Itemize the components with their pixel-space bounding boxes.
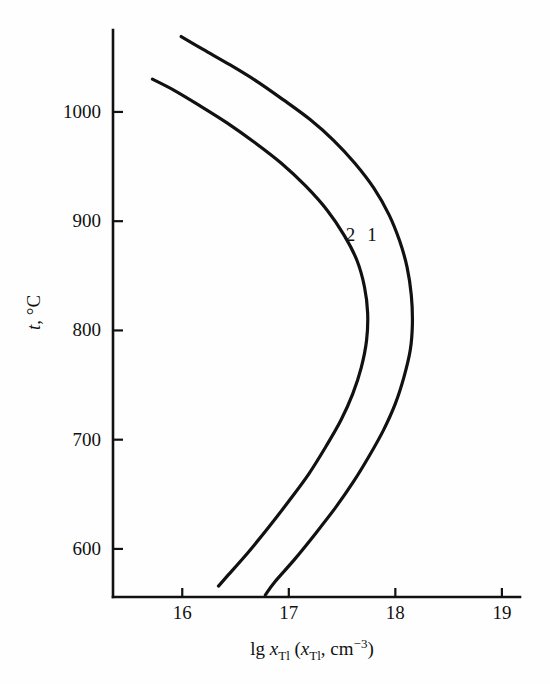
y-tick-label: 600 bbox=[73, 538, 102, 559]
curve-label-1: 1 bbox=[367, 224, 377, 245]
x-axis-ticks: 16171819 bbox=[173, 588, 512, 623]
y-tick-label: 700 bbox=[73, 429, 102, 450]
x-tick-label: 19 bbox=[492, 602, 511, 623]
x-tick-label: 18 bbox=[386, 602, 405, 623]
data-curve-1 bbox=[181, 37, 412, 595]
x-tick-label: 17 bbox=[279, 602, 298, 623]
y-tick-label: 1000 bbox=[63, 101, 101, 122]
x-axis-title: lg xTl (xTl, cm−3) bbox=[250, 636, 374, 663]
x-tick-label: 16 bbox=[173, 602, 192, 623]
y-axis-title: t, °C bbox=[23, 295, 44, 330]
curve-labels-group: 12 bbox=[346, 224, 377, 245]
curve-label-2: 2 bbox=[346, 224, 356, 245]
y-tick-label: 800 bbox=[73, 319, 102, 340]
data-curves-group bbox=[152, 37, 412, 595]
axes-group bbox=[113, 30, 520, 597]
y-tick-label: 900 bbox=[73, 210, 102, 231]
chart-plot-area: 16171819 6007008009001000 12 lg xTl (xTl… bbox=[0, 0, 550, 684]
chart-figure: 16171819 6007008009001000 12 lg xTl (xTl… bbox=[0, 0, 550, 684]
